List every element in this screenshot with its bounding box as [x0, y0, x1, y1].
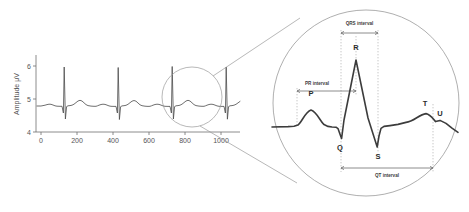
wave-label-u: U [437, 109, 442, 118]
wave-label-q: Q [337, 143, 343, 152]
lens-connectors [200, 18, 300, 183]
interval-qt-label: QT interval [375, 173, 399, 178]
ecg-figure: 6 5 4 0 200 400 600 800 1000 Amplitude [0, 0, 469, 212]
interval-pr: PR interval [297, 81, 356, 93]
lens-connector-top [213, 18, 300, 76]
wave-label-p: P [308, 89, 313, 98]
y-axis-title: Amplitude μV [13, 73, 21, 115]
x-tick-label-800: 800 [179, 137, 191, 144]
y-tick-label-5: 5 [27, 96, 31, 103]
y-tick-label-4: 4 [27, 129, 31, 136]
overview-plot: 6 5 4 0 200 400 600 800 1000 Amplitude [13, 55, 240, 144]
interval-qrs: QRS interval [341, 21, 378, 35]
magnified-inset: QRS interval PR interval QT interval P [272, 10, 459, 196]
y-axis-ticks: 6 5 4 [27, 63, 36, 136]
interval-qt: QT interval [341, 166, 433, 178]
interval-qrs-label: QRS interval [346, 21, 374, 26]
wave-label-s: S [375, 152, 380, 161]
ecg-inset-trace [272, 60, 458, 147]
x-tick-label-0: 0 [39, 137, 43, 144]
wave-label-r: R [353, 43, 359, 52]
lens-connector-bottom [200, 126, 297, 183]
wave-label-t: T [423, 99, 428, 108]
x-tick-label-400: 400 [107, 137, 119, 144]
interval-pr-label: PR interval [305, 81, 329, 86]
x-axis-ticks: 0 200 400 600 800 1000 [39, 132, 229, 144]
x-tick-label-600: 600 [143, 137, 155, 144]
y-tick-label-6: 6 [27, 63, 31, 70]
ecg-overview-trace [37, 67, 240, 120]
x-tick-label-200: 200 [71, 137, 83, 144]
ecg-figure-svg: 6 5 4 0 200 400 600 800 1000 Amplitude [0, 0, 469, 212]
